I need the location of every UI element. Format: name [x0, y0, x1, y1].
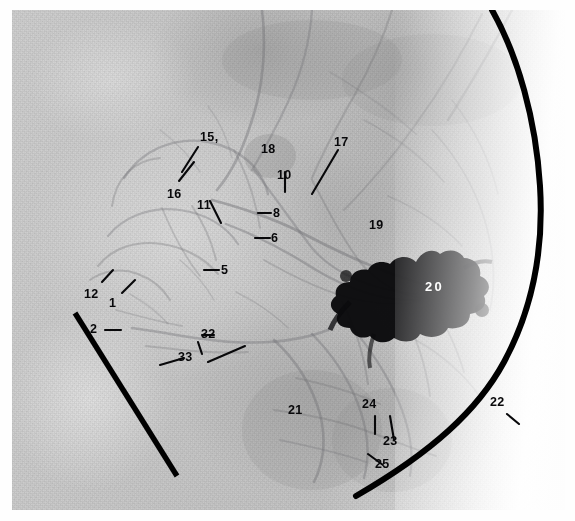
- label-22: 22: [490, 396, 505, 409]
- label-24: 24: [362, 398, 377, 411]
- label-21: 21: [288, 404, 303, 417]
- label-15: 15,: [200, 131, 219, 144]
- label-16: 16: [167, 188, 182, 201]
- label-11: 11: [197, 199, 211, 212]
- label-5: 5: [221, 264, 228, 277]
- label-2: 2: [90, 323, 97, 336]
- label-8: 8: [273, 207, 280, 220]
- figure-canvas: 15, 16 11 18 10 17 19 8 6 5 12 1 2 32 33…: [0, 0, 575, 521]
- label-17: 17: [334, 136, 349, 149]
- label-19: 19: [369, 219, 384, 232]
- label-10: 10: [277, 169, 292, 182]
- label-32: 32: [201, 328, 216, 341]
- label-25: 25: [375, 458, 390, 471]
- curved-skin-line-marker: [356, 10, 541, 496]
- label-33: 33: [178, 351, 193, 364]
- radiopaque-markers: [12, 10, 565, 510]
- label-1: 1: [109, 297, 116, 310]
- label-23: 23: [383, 435, 398, 448]
- label-20: 20: [425, 280, 444, 293]
- label-6: 6: [271, 232, 278, 245]
- radiograph-plate: 15, 16 11 18 10 17 19 8 6 5 12 1 2 32 33…: [12, 10, 565, 510]
- label-12: 12: [84, 288, 99, 301]
- straight-diagonal-marker: [75, 313, 177, 476]
- label-18: 18: [261, 143, 276, 156]
